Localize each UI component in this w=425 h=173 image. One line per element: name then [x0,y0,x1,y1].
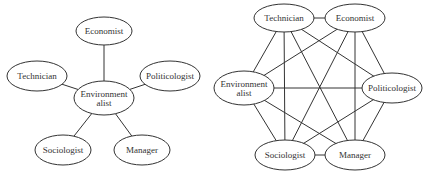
node-manager: Manager [114,135,170,165]
node-manager: Manager [325,140,385,170]
node-label: Economist [336,13,375,23]
node-label: Technician [264,13,304,23]
node-label: Manager [126,145,158,155]
node-label: Technician [17,71,57,81]
node-label: Politicologist [368,83,417,93]
node-label: Economist [85,26,124,36]
star-network-nodes: EconomistTechnicianPoliticologistEnviron… [7,17,200,165]
node-sociologist: Sociologist [255,140,315,170]
node-politicologist: Politicologist [140,61,200,91]
node-technician: Technician [7,61,67,91]
node-economist: Economist [76,17,132,45]
node-label: Politicologist [146,71,195,81]
edge-technician-sociologist [284,18,285,155]
node-economist: Economist [325,4,385,32]
node-environmentalist: Environmentalist [74,81,134,115]
star-network-diagram: EconomistTechnicianPoliticologistEnviron… [7,17,200,165]
complete-network-diagram: TechnicianEconomistEnvironmentalistPolit… [214,4,422,170]
node-label: alist [97,98,112,108]
node-technician: Technician [254,4,314,32]
node-label: Sociologist [43,145,84,155]
network-diagrams: EconomistTechnicianPoliticologistEnviron… [0,0,425,173]
node-label: alist [237,88,252,98]
node-sociologist: Sociologist [35,135,91,165]
complete-network-nodes: TechnicianEconomistEnvironmentalistPolit… [214,4,422,170]
node-environmentalist: Environmentalist [214,71,274,105]
node-label: Manager [339,150,371,160]
node-label: Sociologist [265,150,306,160]
node-politicologist: Politicologist [362,73,422,103]
